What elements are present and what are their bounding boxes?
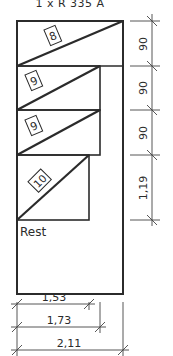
strip-9-b: 9	[17, 110, 100, 155]
strip-diagonal	[17, 21, 123, 66]
strip-diagonal	[17, 110, 100, 155]
strip-10: 10	[17, 155, 89, 220]
dimension-label-vertical: 90	[137, 126, 150, 140]
strip-diagonal	[17, 66, 100, 110]
dimension-label-horizontal: 1,73	[47, 314, 72, 327]
dimension-label-horizontal: 2,11	[57, 337, 82, 350]
rest-label: Rest	[20, 225, 46, 239]
dimension-label-vertical: 90	[137, 37, 150, 51]
drawing-title: 1 x R 335 A	[35, 0, 104, 10]
strip-8: 8	[17, 21, 123, 66]
strip-9-a: 9	[17, 66, 100, 110]
dimension-label-vertical: 1,19	[137, 176, 150, 201]
strip-diagonal	[17, 155, 89, 220]
dimension-label-horizontal: 1,53	[42, 291, 67, 304]
sheet-outline	[17, 21, 123, 294]
cutting-plan-diagram: 1 x R 335 A 8 9 9 10	[0, 0, 173, 356]
dimension-label-vertical: 90	[137, 81, 150, 95]
